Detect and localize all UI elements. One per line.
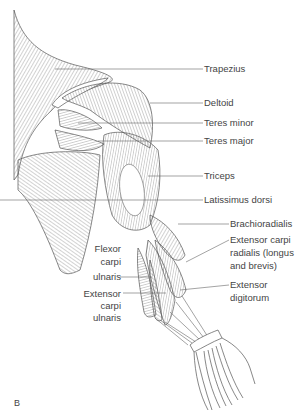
- label-trapezius: Trapezius: [204, 63, 245, 74]
- label-extensor-carpi-radialis-2: radialis (longus: [230, 247, 294, 258]
- label-triceps: Triceps: [204, 170, 235, 181]
- label-teres-major: Teres major: [204, 135, 254, 146]
- label-extensor-carpi-radialis-3: and brevis): [230, 260, 277, 271]
- label-deltoid: Deltoid: [204, 97, 234, 108]
- label-extensor-carpi-ulnaris-2: carpi: [60, 300, 121, 311]
- panel-letter: B: [14, 398, 20, 408]
- label-extensor-carpi-radialis-1: Extensor carpi: [230, 234, 291, 245]
- hand-outline: [194, 338, 255, 410]
- label-extensor-carpi-ulnaris-3: ulnaris: [60, 312, 121, 323]
- label-extensor-carpi-ulnaris-1: Extensor: [60, 288, 121, 299]
- label-latissimus-dorsi: Latissimus dorsi: [204, 194, 272, 205]
- label-extensor-digitorum-1: Extensor: [230, 279, 268, 290]
- arm-muscle-illustration: [0, 0, 295, 415]
- label-flexor-carpi-ulnaris-1: Flexor: [60, 243, 121, 254]
- label-flexor-carpi-ulnaris-3: ulnaris: [60, 271, 121, 282]
- label-flexor-carpi-ulnaris-2: carpi: [60, 256, 121, 267]
- teres-major-muscle: [55, 130, 104, 151]
- label-brachioradialis: Brachioradialis: [230, 218, 292, 229]
- label-extensor-digitorum-2: digitorum: [230, 292, 269, 303]
- label-teres-minor: Teres minor: [204, 117, 254, 128]
